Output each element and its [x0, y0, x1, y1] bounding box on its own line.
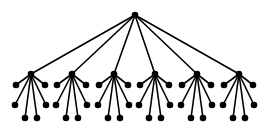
leaf-node — [83, 82, 90, 89]
parent-node — [28, 71, 35, 78]
leaf-node — [208, 82, 215, 89]
leaf-node — [179, 82, 186, 89]
leaf-node — [188, 115, 195, 122]
edge-root-to-parent-1 — [31, 15, 135, 74]
leaf-node — [230, 115, 237, 122]
leaf-node — [146, 115, 153, 122]
leaf-node — [178, 102, 185, 109]
leaf-node — [209, 102, 216, 109]
tree-edges — [15, 15, 254, 118]
leaf-node — [42, 82, 49, 89]
leaf-node — [220, 102, 227, 109]
leaf-node — [166, 82, 173, 89]
leaf-node — [221, 82, 228, 89]
parent-node — [194, 71, 201, 78]
leaf-node — [54, 82, 61, 89]
leaf-node — [22, 115, 29, 122]
leaf-node — [96, 82, 103, 89]
leaf-node — [75, 115, 82, 122]
parent-node — [69, 71, 76, 78]
tree-nodes — [12, 12, 258, 122]
leaf-node — [12, 102, 19, 109]
leaf-node — [95, 102, 102, 109]
leaf-node — [250, 82, 257, 89]
parent-node — [152, 71, 159, 78]
parent-node — [236, 71, 243, 78]
leaf-node — [43, 102, 50, 109]
leaf-node — [200, 115, 207, 122]
leaf-node — [137, 82, 144, 89]
leaf-node — [105, 115, 112, 122]
leaf-node — [167, 102, 174, 109]
root-node — [132, 12, 139, 19]
leaf-node — [117, 115, 124, 122]
leaf-node — [136, 102, 143, 109]
leaf-node — [63, 115, 70, 122]
leaf-node — [13, 82, 20, 89]
leaf-node — [158, 115, 165, 122]
leaf-node — [251, 102, 258, 109]
leaf-node — [242, 115, 249, 122]
leaf-node — [126, 102, 133, 109]
parent-node — [111, 71, 118, 78]
leaf-node — [84, 102, 91, 109]
tree-diagram — [0, 0, 266, 129]
leaf-node — [34, 115, 41, 122]
leaf-node — [125, 82, 132, 89]
leaf-node — [53, 102, 60, 109]
